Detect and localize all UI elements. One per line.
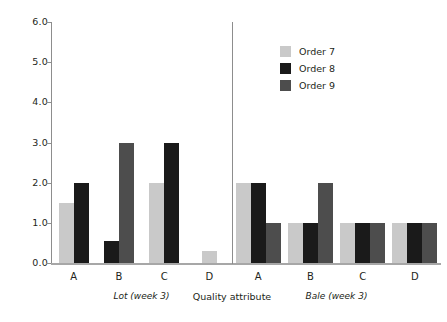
bar	[164, 143, 179, 264]
bar	[355, 223, 370, 263]
bar	[202, 251, 217, 263]
legend-item: Order 7	[280, 44, 335, 58]
y-tick-mark	[46, 263, 51, 264]
legend-swatch	[280, 46, 291, 57]
legend-item: Order 9	[280, 78, 335, 92]
x-tick-label: C	[144, 271, 184, 282]
bar	[119, 143, 134, 264]
bar	[407, 223, 422, 263]
bar	[236, 183, 251, 263]
bar	[59, 203, 74, 263]
x-axis-title: Quality attribute	[172, 291, 292, 302]
bar	[266, 223, 281, 263]
bar	[74, 183, 89, 263]
x-tick-label: C	[343, 271, 383, 282]
x-tick-label: B	[99, 271, 139, 282]
x-axis-line	[51, 263, 441, 265]
x-tick-label: D	[189, 271, 229, 282]
chart-legend: Order 7Order 8Order 9	[280, 44, 335, 95]
legend-swatch	[280, 80, 291, 91]
bar	[340, 223, 355, 263]
plot-area	[51, 22, 441, 263]
bar	[392, 223, 407, 263]
bar	[288, 223, 303, 263]
x-tick-label: B	[290, 271, 330, 282]
bar-chart: 0.01.02.03.04.05.06.0 ABCDLot (week 3)AB…	[0, 0, 447, 322]
x-tick-label: A	[238, 271, 278, 282]
legend-swatch	[280, 63, 291, 74]
legend-label: Order 8	[299, 63, 335, 74]
bar	[318, 183, 333, 263]
legend-label: Order 7	[299, 46, 335, 57]
bar	[251, 183, 266, 263]
bar	[303, 223, 318, 263]
bar	[422, 223, 437, 263]
legend-item: Order 8	[280, 61, 335, 75]
x-tick-label: A	[54, 271, 94, 282]
bar	[370, 223, 385, 263]
legend-label: Order 9	[299, 80, 335, 91]
bar	[104, 241, 119, 263]
bar	[149, 183, 164, 263]
panel-label: Bale (week 3)	[277, 291, 397, 301]
x-tick-label: D	[395, 271, 435, 282]
